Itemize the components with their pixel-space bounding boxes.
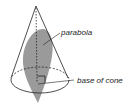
base-label: base of cone [77,76,123,85]
parabola-label: parabola [60,28,93,37]
cone-diagram: parabola base of cone [0,0,131,112]
